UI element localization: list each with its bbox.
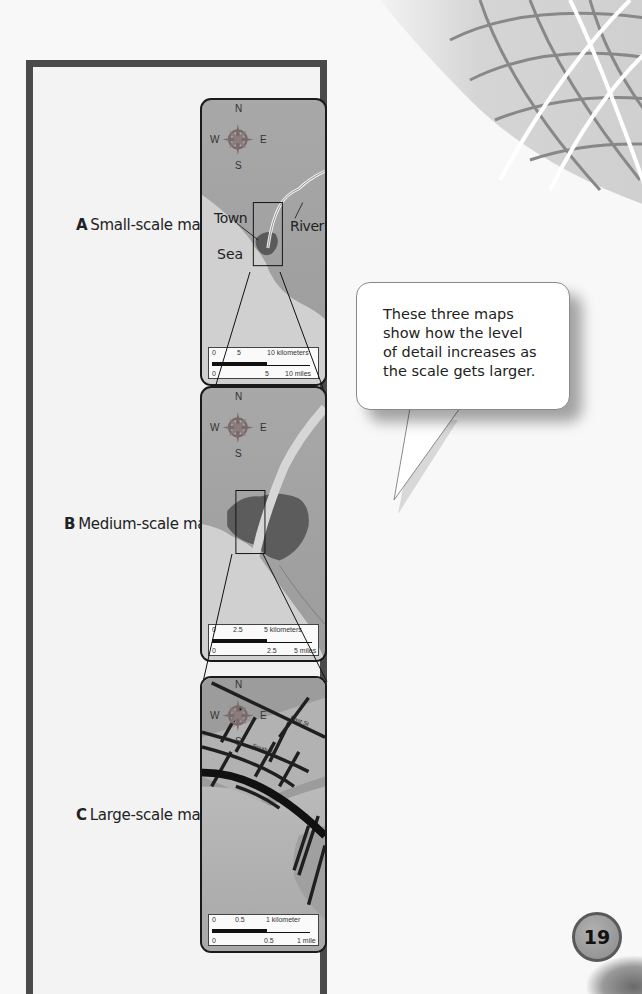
page-number-badge: 19	[572, 912, 622, 962]
medium-scale-map: N W E S 0 2.5 5 kilometers 0 2.5 5 miles	[200, 386, 327, 662]
compass-w: W	[210, 134, 219, 145]
map-c-label: CLarge-scale map	[76, 806, 210, 824]
compass-w: W	[210, 422, 219, 433]
speech-bubble-tail	[380, 408, 540, 518]
compass-rose-icon	[222, 124, 253, 156]
speech-bubble: These three maps show how the level of d…	[356, 282, 570, 410]
compass-e: E	[260, 422, 267, 433]
town-label: Town	[214, 210, 247, 226]
textbook-page: ASmall-scale map BMedium-scale map CLarg…	[0, 0, 642, 994]
sea-label: Sea	[217, 246, 243, 262]
map-b-label: BMedium-scale map	[64, 515, 215, 533]
compass-n: N	[235, 679, 242, 690]
compass-n: N	[235, 103, 242, 114]
compass-rose-icon	[222, 412, 253, 444]
compass-s: S	[235, 736, 242, 747]
compass-n: N	[235, 391, 242, 402]
large-scale-map: N W E S East St South St 0 0.5 1 kilomet…	[200, 676, 327, 953]
scale-bar: 0 5 10 kilometers 0 5 10 miles	[208, 347, 319, 379]
scale-bar: 0 0.5 1 kilometer 0 0.5 1 mile	[208, 914, 319, 946]
compass-e: E	[260, 710, 267, 721]
compass-s: S	[235, 160, 242, 171]
map-a-label: ASmall-scale map	[76, 216, 210, 234]
decorative-map-corner	[300, 0, 642, 210]
small-scale-map: N W E S Town River Sea 0 5 10 kilometers…	[200, 98, 327, 386]
compass-w: W	[210, 710, 219, 721]
compass-e: E	[260, 134, 267, 145]
scale-bar: 0 2.5 5 kilometers 0 2.5 5 miles	[208, 624, 319, 656]
river-label: River	[290, 218, 324, 234]
compass-s: S	[235, 448, 242, 459]
